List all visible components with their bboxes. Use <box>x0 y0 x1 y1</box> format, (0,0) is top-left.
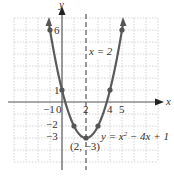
y-label-neg2: −2 <box>46 118 58 130</box>
x-label-0: 0 <box>56 103 62 115</box>
data-point <box>95 123 100 128</box>
equation-label: y = x2 − 4x + 1 <box>100 130 169 142</box>
parabola-chart: x y 6 1 −2 −3 −1 0 2 4 5 x = 2 (2, −3) y… <box>0 0 174 178</box>
x-axis-label: x <box>165 95 171 107</box>
x-axis-arrow-icon <box>155 99 164 106</box>
x-label-4: 4 <box>107 103 113 115</box>
x-label-neg1: −1 <box>43 103 55 115</box>
data-point <box>71 123 76 128</box>
data-point <box>47 27 52 32</box>
x-label-5: 5 <box>119 103 125 115</box>
data-point <box>107 87 112 92</box>
y-label-1: 1 <box>54 84 60 96</box>
y-label-neg3: −3 <box>46 130 58 142</box>
y-label-6: 6 <box>54 24 60 36</box>
x-label-2: 2 <box>83 103 89 115</box>
axis-of-symmetry-label: x = 2 <box>88 45 113 57</box>
data-point <box>119 27 124 32</box>
y-axis-label: y <box>58 0 64 10</box>
data-point <box>59 87 64 92</box>
vertex-label: (2, −3) <box>70 140 100 153</box>
